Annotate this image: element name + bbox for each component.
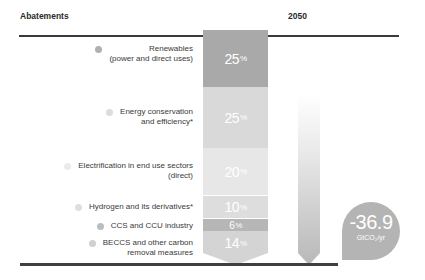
bar-segment-energy-conservation: 25% bbox=[203, 87, 268, 148]
bar-segment-renewables: 25% bbox=[203, 30, 268, 87]
dot-beccs bbox=[89, 240, 96, 247]
bottom-rule bbox=[20, 263, 338, 266]
label-beccs: BECCS and other carbon removal measures bbox=[103, 238, 193, 258]
total-unit: GtCO₂/yr bbox=[342, 233, 400, 242]
label-electrification: Electrification in end use sectors (dire… bbox=[78, 161, 193, 181]
dot-electrification bbox=[64, 163, 71, 170]
bar-segment-hydrogen: 10% bbox=[203, 196, 268, 218]
total-bubble: -36.9 GtCO₂/yr bbox=[342, 202, 400, 260]
header-abatements: Abatements bbox=[20, 11, 69, 21]
dot-hydrogen bbox=[75, 204, 82, 211]
label-energy-conservation: Energy conservation and efficiency* bbox=[120, 107, 193, 127]
dot-renewables bbox=[95, 46, 102, 53]
bar-segment-ccs: 6% bbox=[203, 219, 268, 231]
total-value: -36.9 bbox=[342, 211, 400, 233]
label-ccs: CCS and CCU industry bbox=[111, 221, 193, 231]
total-arrow bbox=[298, 95, 320, 265]
dot-ccs bbox=[97, 223, 104, 230]
header-year: 2050 bbox=[288, 11, 307, 21]
bar-segment-beccs: 14% bbox=[203, 231, 268, 255]
label-renewables: Renewables (power and direct uses) bbox=[109, 44, 193, 64]
dot-energy-conservation bbox=[106, 109, 113, 116]
bar-segment-electrification: 20% bbox=[203, 148, 268, 195]
label-hydrogen: Hydrogen and its derivatives* bbox=[89, 202, 193, 212]
